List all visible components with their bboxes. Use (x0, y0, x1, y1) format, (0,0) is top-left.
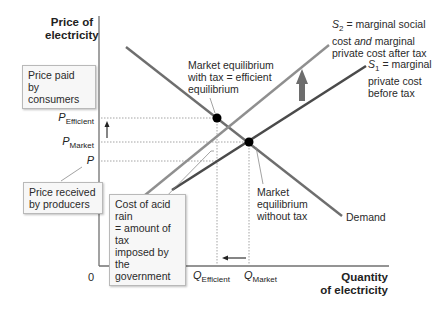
x-axis-label: Quantity of electricity (310, 271, 388, 297)
demand-label: Demand (346, 211, 386, 223)
s2-label: S2 = marginal social cost and marginal p… (332, 18, 427, 59)
p-market-label: PMarket (30, 135, 94, 150)
efficient-equilibrium-annotation: Market equilibrium with tax = efficient … (188, 59, 274, 95)
y-axis-label-line1: Price of (45, 16, 93, 29)
p-efficient-label: PEfficient (30, 111, 94, 126)
s1-label: S1 = marginal private cost before tax (368, 58, 432, 99)
y-axis-label: Price of electricity (45, 16, 93, 42)
x-axis-label-line1: Quantity (310, 271, 388, 284)
origin-label: 0 (88, 271, 94, 283)
acid-rain-cost-box: Cost of acid rain = amount of tax impose… (109, 194, 186, 286)
efficient-equilibrium-point (213, 114, 222, 123)
market-equilibrium-point (245, 138, 254, 147)
y-axis-label-line2: electricity (45, 29, 93, 42)
supply-shift-arrow-icon (296, 69, 308, 101)
q-market-label: QMarket (244, 269, 277, 284)
quantity-decrease-arrow-icon (222, 256, 246, 261)
price-received-by-producers-box: Price received by producers (23, 182, 103, 214)
q-efficient-label: QEfficient (193, 269, 230, 284)
price-increase-arrow-icon (105, 121, 110, 138)
market-equilibrium-annotation: Market equilibrium without tax (257, 186, 308, 222)
x-axis-label-line2: of electricity (310, 284, 388, 297)
p-label: P (30, 154, 94, 166)
price-paid-by-consumers-box: Price paid by consumers (22, 65, 96, 109)
